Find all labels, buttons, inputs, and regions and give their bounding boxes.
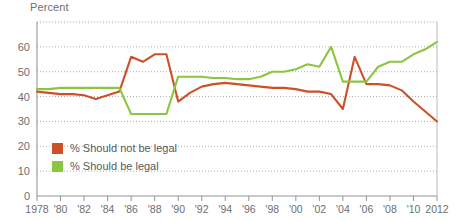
legend-label-0: % Should not be legal	[70, 142, 177, 154]
y-tick-label-30: 30	[18, 115, 30, 127]
x-tick-label-2002: '02	[313, 203, 327, 215]
series-line-should-be-legal	[37, 42, 437, 114]
x-tick-label-1988: '88	[148, 203, 162, 215]
legend-swatch-0	[52, 143, 63, 154]
y-tick-label-10: 10	[18, 165, 30, 177]
line-chart-plot: 0102030405060 1978'80'82'84'86'88'90'92'…	[0, 0, 456, 221]
x-tick-label-1984: '84	[101, 203, 115, 215]
x-tick-label-1996: '96	[242, 203, 256, 215]
x-tick-label-1986: '86	[124, 203, 138, 215]
chart-container: Percent 0102030405060 1978'80'82'84'86'8…	[0, 0, 456, 221]
data-series-group	[37, 42, 437, 122]
legend-swatch-1	[52, 161, 63, 172]
x-tick-label-2010: '10	[407, 203, 421, 215]
x-tick-label-2012: 2012	[425, 203, 449, 215]
x-tick-label-1994: '94	[218, 203, 232, 215]
x-tick-label-2008: '08	[383, 203, 397, 215]
y-tick-label-20: 20	[18, 140, 30, 152]
x-tick-label-2004: '04	[336, 203, 350, 215]
y-tick-label-50: 50	[18, 66, 30, 78]
x-tick-label-1982: '82	[77, 203, 91, 215]
y-tick-label-60: 60	[18, 41, 30, 53]
y-axis-ticks: 0102030405060	[18, 41, 30, 202]
x-tick-label-1992: '92	[195, 203, 209, 215]
x-tick-label-2000: '00	[289, 203, 303, 215]
x-tick-label-1998: '98	[265, 203, 279, 215]
chart-legend: % Should not be legal% Should be legal	[52, 142, 177, 172]
x-tick-label-1978: 1978	[25, 203, 49, 215]
x-tick-label-2006: '06	[360, 203, 374, 215]
x-tick-label-1990: '90	[171, 203, 185, 215]
x-tick-label-1980: '80	[54, 203, 68, 215]
x-axis-ticks: 1978'80'82'84'86'88'90'92'94'96'98'00'02…	[25, 196, 449, 215]
y-tick-label-40: 40	[18, 91, 30, 103]
legend-label-1: % Should be legal	[70, 160, 159, 172]
y-tick-label-0: 0	[24, 190, 30, 202]
